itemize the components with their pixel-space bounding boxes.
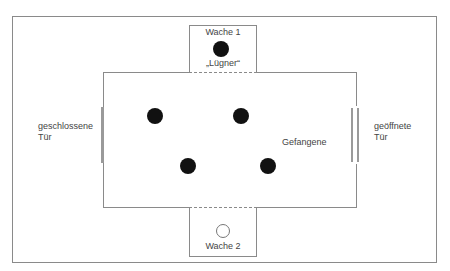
prisoners-label: Gefangene	[282, 137, 327, 148]
prisoner-4-icon	[260, 158, 276, 174]
guard-1-label: Wache 1	[189, 27, 257, 38]
prisoner-2-icon	[233, 108, 249, 124]
closed-door-icon	[101, 107, 104, 163]
prisoner-3-icon	[180, 158, 196, 174]
open-door-label-line2: Tür	[374, 132, 388, 143]
closed-door-label-line2: Tür	[38, 132, 52, 143]
guard-2-person-icon	[216, 224, 230, 238]
open-door-leaf-left-icon	[351, 108, 353, 162]
guard-1-person-icon	[213, 41, 229, 57]
closed-door-label-line1: geschlossene	[38, 121, 93, 132]
open-door-label-line1: geöffnete	[374, 121, 411, 132]
guard-1-liar-label: „Lügner“	[189, 58, 257, 69]
prisoner-1-icon	[147, 108, 163, 124]
open-door-leaf-right-icon	[357, 108, 359, 162]
guard-2-label: Wache 2	[189, 241, 257, 252]
